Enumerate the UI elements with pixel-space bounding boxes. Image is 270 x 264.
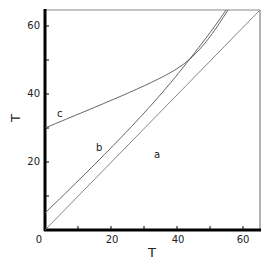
curve-b (45, 10, 226, 213)
x-axis-label: T (147, 245, 156, 260)
x-tick-label-0: 0 (36, 234, 42, 245)
x-tick-label-40: 40 (172, 234, 185, 245)
curve-c (45, 10, 228, 128)
curve-label-a: a (154, 149, 160, 160)
y-tick-label-60: 60 (27, 20, 40, 31)
y-axis-label: T (8, 114, 23, 123)
curve-label-b: b (96, 142, 102, 153)
y-tick-label-40: 40 (27, 88, 40, 99)
chart: 0 20 40 60 20 40 60 T T a b c (0, 0, 270, 264)
x-tick-label-60: 60 (237, 234, 250, 245)
y-tick-label-20: 20 (27, 156, 40, 167)
curve-a (45, 11, 259, 230)
curve-label-c: c (57, 108, 63, 119)
x-tick-label-20: 20 (106, 234, 119, 245)
